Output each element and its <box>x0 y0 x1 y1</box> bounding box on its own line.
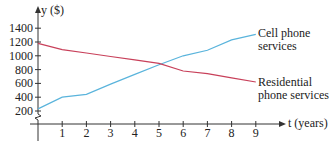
x-tick-label: 9 <box>253 126 259 140</box>
y-axis-label: y ($) <box>41 4 64 17</box>
series-cell-phone-line <box>38 34 256 109</box>
y-axis-label-text: y ($) <box>41 3 64 17</box>
y-axis: 200400600800100012001400 <box>9 6 41 141</box>
x-tick-label: 6 <box>180 126 186 140</box>
legend-cell-phone: Cell phone services <box>258 27 310 53</box>
series-residential-line <box>38 43 256 82</box>
x-axis: 123456789 <box>30 121 286 140</box>
x-tick-label: 1 <box>59 126 65 140</box>
x-axis-label: t (years) <box>288 117 328 130</box>
y-tick-label: 400 <box>15 90 33 104</box>
y-tick-label: 1000 <box>9 49 33 63</box>
x-tick-label: 5 <box>156 126 162 140</box>
legend-cell-phone-line2: services <box>258 40 310 53</box>
x-tick-label: 7 <box>204 126 210 140</box>
legend-residential-line2: phone services <box>258 89 329 102</box>
x-tick-label: 3 <box>108 126 114 140</box>
series-layer <box>38 34 256 109</box>
y-tick-label: 200 <box>15 104 33 118</box>
legend-residential: Residential phone services <box>258 76 329 102</box>
x-tick-label: 8 <box>229 126 235 140</box>
y-tick-label: 1400 <box>9 21 33 35</box>
x-axis-label-text: t (years) <box>288 116 328 130</box>
x-axis-arrow-icon <box>279 121 286 127</box>
x-tick-label: 2 <box>83 126 89 140</box>
x-tick-label: 4 <box>132 126 138 140</box>
y-tick-label: 800 <box>15 63 33 77</box>
y-tick-label: 600 <box>15 76 33 90</box>
y-tick-label: 1200 <box>9 35 33 49</box>
axis-break-zigzag-icon <box>35 114 41 120</box>
line-chart: 200400600800100012001400 123456789 <box>0 0 334 148</box>
